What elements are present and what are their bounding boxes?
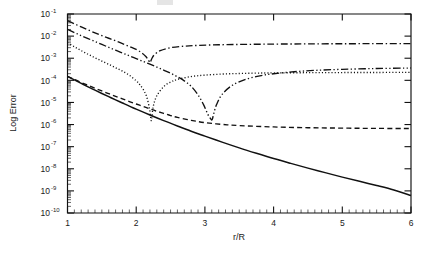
y-tick-exponent: -7 xyxy=(51,140,57,146)
y-tick-mantissa: 10 xyxy=(41,164,51,174)
y-axis-title: Log Error xyxy=(8,94,18,132)
x-tick-label: 5 xyxy=(340,218,345,228)
y-tick-exponent: -6 xyxy=(51,118,57,124)
y-tick-exponent: -5 xyxy=(51,96,57,102)
x-tick-label: 6 xyxy=(409,218,414,228)
y-tick-exponent: -10 xyxy=(51,207,60,213)
y-tick-mantissa: 10 xyxy=(41,31,51,41)
y-tick-exponent: -2 xyxy=(51,30,57,36)
chart-background xyxy=(0,0,423,253)
crop-artifact xyxy=(157,0,173,5)
x-tick-label: 2 xyxy=(134,218,139,228)
y-tick-mantissa: 10 xyxy=(41,53,51,63)
y-tick-exponent: -8 xyxy=(51,163,57,169)
x-axis-title: r/R xyxy=(233,232,245,242)
y-tick-mantissa: 10 xyxy=(41,186,51,196)
y-tick-mantissa: 10 xyxy=(41,142,51,152)
y-tick-mantissa: 10 xyxy=(41,9,51,19)
y-tick-exponent: -9 xyxy=(51,185,57,191)
x-tick-label: 4 xyxy=(271,218,276,228)
log-error-vs-radius-chart: 10-110-210-310-410-510-610-710-810-910-1… xyxy=(0,0,423,253)
y-tick-exponent: -4 xyxy=(51,74,57,80)
y-tick-mantissa: 10 xyxy=(41,76,51,86)
y-tick-mantissa: 10 xyxy=(41,98,51,108)
y-tick-mantissa: 10 xyxy=(41,208,51,218)
chart-figure: 10-110-210-310-410-510-610-710-810-910-1… xyxy=(0,0,423,253)
x-tick-label: 3 xyxy=(203,218,208,228)
y-tick-exponent: -3 xyxy=(51,52,57,58)
y-tick-mantissa: 10 xyxy=(41,120,51,130)
x-tick-label: 1 xyxy=(65,218,70,228)
y-tick-exponent: -1 xyxy=(51,8,57,14)
